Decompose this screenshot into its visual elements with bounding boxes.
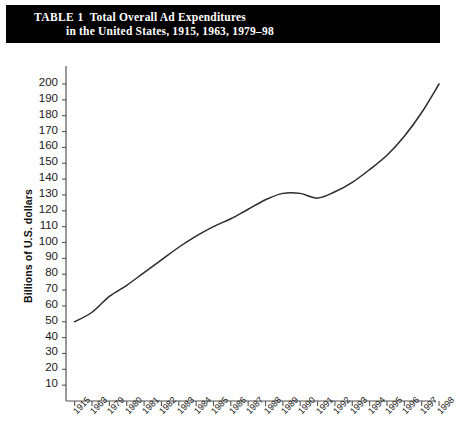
y-axis-tick-label: 20: [24, 361, 58, 373]
y-axis-tick-label: 30: [24, 345, 58, 357]
y-axis-tick-label: 60: [24, 298, 58, 310]
table-title-main: Total Overall Ad Expenditures: [90, 11, 246, 23]
y-axis-tick-label: 10: [24, 377, 58, 389]
table-number: TABLE 1: [34, 11, 84, 23]
table-title-line-1: TABLE 1 Total Overall Ad Expenditures: [34, 10, 274, 24]
table-title-text: TABLE 1 Total Overall Ad Expenditures in…: [34, 10, 274, 38]
table-title-banner: TABLE 1 Total Overall Ad Expenditures in…: [6, 5, 440, 43]
y-axis-tick-label: 200: [24, 76, 58, 88]
y-axis-tick-label: 170: [24, 124, 58, 136]
line-chart-svg: [0, 44, 446, 443]
data-series-line: [75, 84, 439, 322]
y-axis-tick-label: 70: [24, 282, 58, 294]
y-axis-tick-label: 50: [24, 314, 58, 326]
y-axis: [62, 66, 66, 401]
y-axis-tick-label: 110: [24, 219, 58, 231]
table-title-line-2: in the United States, 1915, 1963, 1979–9…: [34, 24, 274, 38]
y-axis-tick-label: 140: [24, 171, 58, 183]
y-axis-tick-label: 120: [24, 203, 58, 215]
y-axis-tick-label: 80: [24, 266, 58, 278]
chart-plot-area: Billions of U.S. dollars 102030405060708…: [0, 44, 446, 443]
y-axis-tick-label: 130: [24, 187, 58, 199]
y-axis-tick-label: 150: [24, 155, 58, 167]
y-axis-tick-label: 180: [24, 108, 58, 120]
y-axis-tick-label: 90: [24, 250, 58, 262]
y-axis-tick-label: 190: [24, 92, 58, 104]
y-axis-tick-label: 100: [24, 235, 58, 247]
y-axis-tick-label: 40: [24, 330, 58, 342]
y-axis-tick-label: 160: [24, 139, 58, 151]
